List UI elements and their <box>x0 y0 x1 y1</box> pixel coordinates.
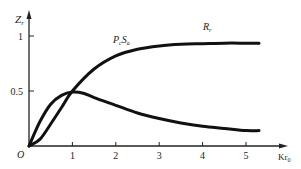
x-tick-label: 3 <box>157 150 162 161</box>
x-tick-label: 2 <box>113 150 118 161</box>
y-axis-label: Zr <box>15 13 24 27</box>
y-tick-label: 0.5 <box>11 86 24 97</box>
series-label-pcsa: PcSa <box>112 34 130 46</box>
origin-label: O <box>17 149 24 160</box>
curve-pcsa <box>29 92 259 146</box>
y-axis-arrow-icon <box>27 10 32 19</box>
x-tick-label: 5 <box>244 150 249 161</box>
y-tick-label: 1 <box>18 31 23 42</box>
x-tick-label: 1 <box>70 150 75 161</box>
chart: 123450.51 Zr O Kr0 Rr PcSa <box>0 0 301 169</box>
x-axis-arrow-icon <box>279 144 288 149</box>
series-label-rr: Rr <box>202 21 212 33</box>
x-tick-label: 4 <box>200 150 205 161</box>
x-axis-label: Kr0 <box>278 152 291 163</box>
curves <box>29 43 259 146</box>
